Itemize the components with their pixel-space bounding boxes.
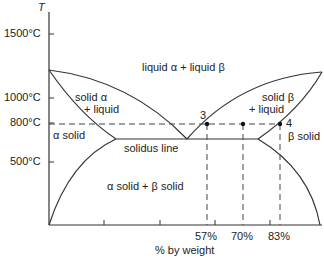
point-3-label: 3 bbox=[200, 110, 206, 121]
y-tick-label-500: 500°C bbox=[10, 156, 41, 167]
x-tick-label-70: 70% bbox=[231, 231, 253, 242]
region-solid-alpha-liquid-line2: + liquid bbox=[84, 104, 119, 115]
point-4-dot bbox=[278, 122, 282, 126]
region-alpha-solid: α solid bbox=[53, 130, 85, 141]
x-tick-label-83: 83% bbox=[268, 231, 290, 242]
region-solid-beta-liquid-line1: solid β bbox=[262, 92, 294, 103]
solvus-beta-curve bbox=[258, 139, 320, 225]
x-tick-label-57: 57% bbox=[195, 231, 217, 242]
point-70-dot bbox=[241, 122, 245, 126]
phase-diagram-graphic bbox=[0, 0, 324, 263]
region-solid-beta-liquid-line2: + liquid bbox=[249, 104, 284, 115]
y-axis-title: T bbox=[38, 2, 45, 13]
region-solid-alpha-liquid-line1: solid α bbox=[75, 92, 107, 103]
region-beta-solid: β solid bbox=[288, 131, 320, 142]
solidus-line-label: solidus line bbox=[124, 143, 178, 154]
point-4-label: 4 bbox=[286, 118, 292, 129]
region-two-solids: α solid + β solid bbox=[107, 181, 184, 192]
y-tick-label-1500: 1500°C bbox=[4, 28, 41, 39]
region-liquid: liquid α + liquid β bbox=[142, 62, 225, 73]
solvus-alpha-curve bbox=[49, 139, 116, 225]
point-3-dot bbox=[205, 122, 209, 126]
y-tick-label-1000: 1000°C bbox=[4, 92, 41, 103]
x-axis-title: % by weight bbox=[155, 245, 214, 256]
y-tick-label-800: 800°C bbox=[10, 117, 41, 128]
